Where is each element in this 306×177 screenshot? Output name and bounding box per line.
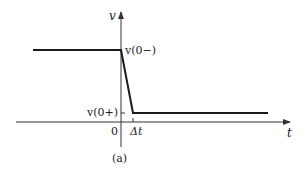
origin-label: 0	[111, 125, 118, 138]
figure-caption: (a)	[112, 152, 127, 165]
diagram-canvas: v v(0−) v(0+) 0 Δt t (a)	[0, 0, 306, 177]
voltage-waveform	[33, 50, 268, 113]
voltage-waveform-diagram: v v(0−) v(0+) 0 Δt t (a)	[0, 0, 306, 177]
y-axis-label: v	[109, 9, 116, 23]
v-after-label: v(0+)	[86, 106, 118, 119]
v-before-label: v(0−)	[124, 44, 156, 57]
delta-t-label: Δt	[129, 125, 143, 138]
x-axis-label: t	[287, 126, 292, 140]
